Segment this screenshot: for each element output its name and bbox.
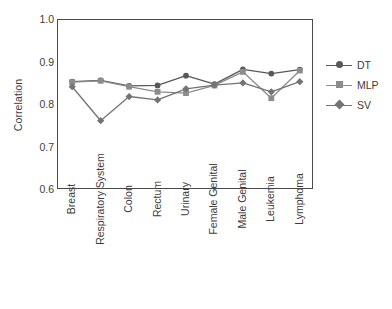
legend-swatch-icon — [326, 99, 352, 111]
data-point — [240, 69, 246, 75]
chart-legend: DTMLPSV — [326, 56, 390, 116]
x-axis-tick-label-text: Rectum — [151, 181, 163, 217]
x-axis-tick-label: Male Genital — [235, 189, 249, 203]
x-axis-tick-label-text: Breast — [65, 184, 77, 214]
y-axis-tick-labels: 1.00.90.80.70.6 — [26, 0, 54, 309]
data-point — [296, 78, 303, 85]
data-point — [268, 71, 274, 77]
x-axis-tick-label: Respiratory System — [93, 189, 107, 203]
data-point — [268, 95, 274, 101]
data-point — [155, 83, 161, 89]
x-axis-tick-label: Colon — [121, 189, 135, 203]
x-axis-tick-label: Lymphoma — [292, 189, 306, 203]
y-axis-tick-label: 0.9 — [28, 57, 54, 68]
y-axis-tick-label: 1.0 — [28, 14, 54, 25]
x-axis-tick-label-text: Leukemia — [264, 176, 276, 222]
data-point — [155, 89, 161, 95]
x-axis-tick-label-text: Lymphoma — [293, 173, 305, 225]
legend-label: SV — [357, 99, 371, 111]
data-point — [268, 88, 275, 95]
x-axis-tick-label-text: Colon — [122, 185, 134, 212]
legend-label: DT — [357, 59, 371, 71]
series-sv — [69, 78, 304, 124]
legend-item-dt[interactable]: DT — [326, 56, 390, 74]
x-axis-tick-labels: BreastRespiratory SystemColonRectumUrina… — [57, 189, 313, 307]
y-axis-title: Correlation — [10, 60, 26, 150]
y-axis-tick-label: 0.7 — [28, 142, 54, 153]
data-point — [154, 96, 161, 103]
x-axis-tick-label-text: Respiratory System — [94, 153, 106, 245]
legend-item-mlp[interactable]: MLP — [326, 76, 390, 94]
legend-label: MLP — [357, 79, 379, 91]
x-axis-tick-label: Urinary — [178, 189, 192, 203]
x-axis-tick-label: Female Genital — [206, 189, 220, 203]
legend-marker-icon — [336, 61, 343, 68]
data-point — [98, 78, 104, 84]
data-point — [126, 84, 132, 90]
y-axis-tick-label: 0.8 — [28, 99, 54, 110]
y-axis-title-text: Correlation — [12, 79, 24, 131]
x-axis-tick-label: Leukemia — [263, 189, 277, 203]
data-point — [183, 73, 189, 79]
y-axis-tick-label: 0.6 — [28, 184, 54, 195]
chart-figure: Correlation 1.00.90.80.70.6 BreastRespir… — [0, 0, 392, 309]
x-axis-tick-label-text: Male Genital — [236, 170, 248, 229]
x-axis-tick-label-text: Female Genital — [207, 163, 219, 234]
legend-marker-icon — [334, 100, 344, 110]
data-point — [239, 79, 246, 86]
x-axis-tick-label: Breast — [64, 189, 78, 203]
legend-swatch-icon — [326, 79, 352, 91]
x-axis-tick-label: Rectum — [150, 189, 164, 203]
x-axis-tick-label-text: Urinary — [179, 182, 191, 216]
data-point — [297, 68, 303, 74]
legend-item-sv[interactable]: SV — [326, 96, 390, 114]
legend-marker-icon — [336, 81, 343, 88]
legend-swatch-icon — [326, 59, 352, 71]
